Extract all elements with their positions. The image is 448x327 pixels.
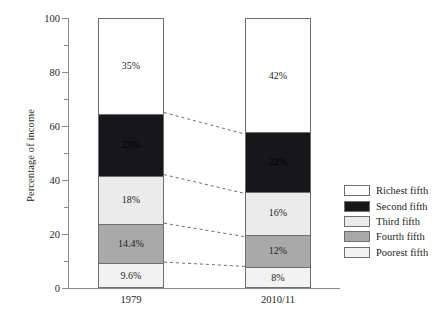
segment-divider xyxy=(99,224,163,225)
legend-swatch xyxy=(344,216,370,227)
y-tick-minor xyxy=(64,207,68,208)
y-tick-major xyxy=(62,72,68,73)
x-axis-line xyxy=(68,288,340,289)
y-tick-major xyxy=(62,288,68,289)
bar-segment-label: 18% xyxy=(122,195,140,205)
y-tick-label: 60 xyxy=(4,121,60,132)
y-tick-minor xyxy=(64,45,68,46)
stacked-bar: 42%22%16%12%8% xyxy=(245,18,311,288)
legend-item[interactable]: Second fifth xyxy=(344,198,428,213)
chart-legend: Richest fifthSecond fifthThird fifthFour… xyxy=(344,183,428,260)
legend-label: Poorest fifth xyxy=(376,247,428,258)
y-tick-label: 20 xyxy=(4,229,60,240)
segment-divider xyxy=(246,235,310,236)
stacked-bar: 35%23%18%14.4%9.6% xyxy=(98,18,164,288)
stacked-bar-chart: Percentage of income 020406080100 35%23%… xyxy=(0,0,448,327)
legend-swatch xyxy=(344,201,370,212)
bar-segment: 22% xyxy=(246,132,310,191)
y-axis-line xyxy=(68,18,69,288)
y-tick-minor xyxy=(64,153,68,154)
legend-item[interactable]: Poorest fifth xyxy=(344,245,428,260)
y-tick-label: 40 xyxy=(4,175,60,186)
y-tick-major xyxy=(62,180,68,181)
bar-segment: 16% xyxy=(246,192,310,235)
segment-divider xyxy=(99,114,163,115)
legend-label: Second fifth xyxy=(376,201,428,212)
legend-item[interactable]: Fourth fifth xyxy=(344,229,428,244)
y-tick-major xyxy=(62,234,68,235)
segment-divider xyxy=(246,192,310,193)
bar-segment: 23% xyxy=(99,114,163,176)
y-axis-title: Percentage of income xyxy=(25,56,36,256)
bar-segment-label: 12% xyxy=(269,246,287,256)
y-tick-label: 0 xyxy=(4,283,60,294)
bar-segment-label: 16% xyxy=(269,208,287,218)
bar-segment-label: 35% xyxy=(122,61,140,71)
x-axis-label: 1979 xyxy=(71,294,191,305)
bar-segment: 14.4% xyxy=(99,224,163,263)
y-tick-minor xyxy=(64,261,68,262)
y-tick-major xyxy=(62,18,68,19)
bar-segment-label: 9.6% xyxy=(121,271,142,281)
bar-segment-label: 42% xyxy=(269,71,287,81)
connector-line xyxy=(164,262,245,266)
x-axis-label: 2010/11 xyxy=(218,294,338,305)
connector-line xyxy=(164,113,245,135)
legend-label: Richest fifth xyxy=(376,185,428,196)
bar-segment: 8% xyxy=(246,267,310,288)
bar-segment: 18% xyxy=(99,176,163,225)
y-tick-label: 100 xyxy=(4,13,60,24)
legend-label: Third fifth xyxy=(376,216,420,227)
bar-segment: 42% xyxy=(246,19,310,132)
segment-divider xyxy=(99,263,163,264)
connector-line xyxy=(164,175,245,194)
y-tick-major xyxy=(62,126,68,127)
bar-segment-label: 22% xyxy=(269,157,287,167)
bar-segment-label: 14.4% xyxy=(118,239,144,249)
legend-swatch xyxy=(344,185,370,196)
legend-item[interactable]: Third fifth xyxy=(344,214,428,229)
legend-swatch xyxy=(344,231,370,242)
legend-item[interactable]: Richest fifth xyxy=(344,183,428,198)
legend-swatch xyxy=(344,247,370,258)
bar-segment: 12% xyxy=(246,235,310,267)
y-tick-label: 80 xyxy=(4,67,60,78)
bar-segment-label: 23% xyxy=(122,140,140,150)
y-tick-minor xyxy=(64,99,68,100)
bar-segment: 9.6% xyxy=(99,263,163,288)
segment-divider xyxy=(99,176,163,177)
legend-label: Fourth fifth xyxy=(376,231,425,242)
connector-line xyxy=(164,223,245,237)
segment-divider xyxy=(246,267,310,268)
segment-divider xyxy=(246,132,310,133)
bar-segment-label: 8% xyxy=(271,273,284,283)
bar-segment: 35% xyxy=(99,19,163,114)
